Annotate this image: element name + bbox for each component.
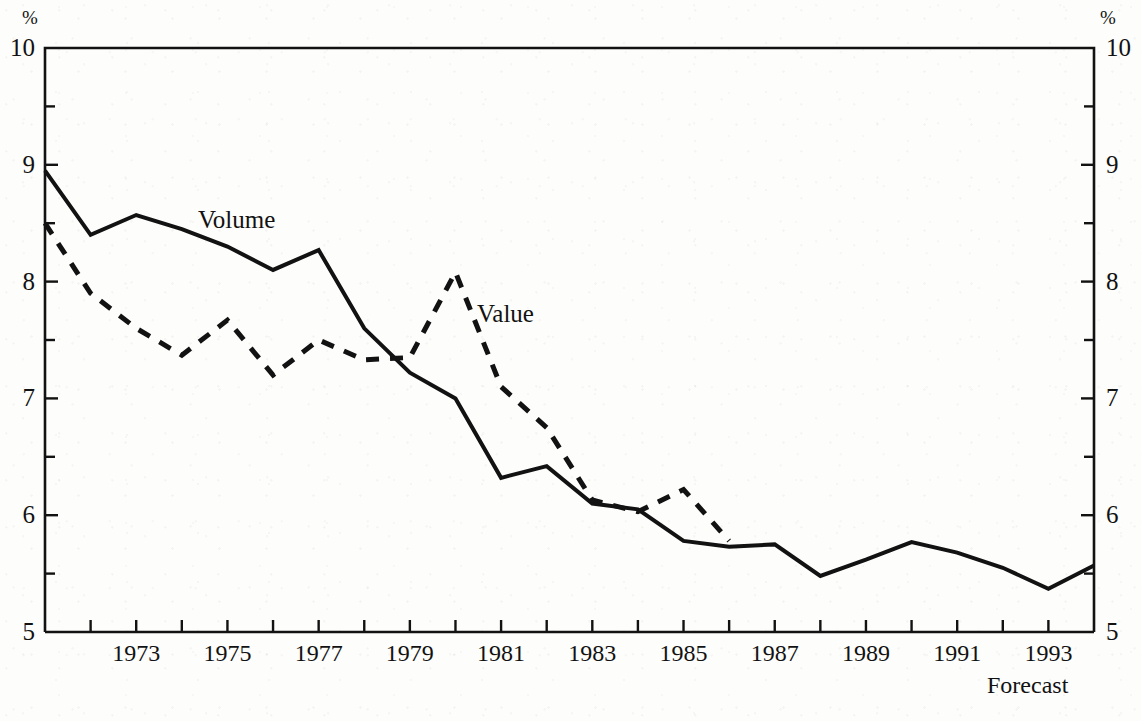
series-line-value: [45, 223, 729, 541]
left-axis-unit-label: %: [22, 8, 38, 27]
x-tick-label-1981: 1981: [477, 641, 525, 665]
x-tick-label-1975: 1975: [203, 641, 251, 665]
y-tick-label-right-7: 7: [1106, 385, 1119, 410]
y-tick-label-left-10: 10: [10, 35, 35, 60]
series-label-volume: Volume: [198, 207, 275, 232]
right-axis-unit-label: %: [1100, 8, 1116, 27]
x-tick-label-1973: 1973: [112, 641, 160, 665]
y-tick-label-right-5: 5: [1106, 619, 1119, 644]
y-tick-label-right-8: 8: [1106, 269, 1119, 294]
forecast-label: Forecast: [987, 673, 1068, 697]
y-tick-label-left-7: 7: [23, 385, 36, 410]
x-tick-label-1985: 1985: [660, 641, 708, 665]
y-tick-label-right-10: 10: [1106, 35, 1131, 60]
y-tick-label-left-5: 5: [23, 619, 36, 644]
series-line-volume: [45, 171, 1094, 589]
x-tick-label-1983: 1983: [568, 641, 616, 665]
y-tick-label-left-8: 8: [23, 269, 36, 294]
series-label-value: Value: [477, 301, 534, 326]
y-tick-label-right-6: 6: [1106, 502, 1119, 527]
chart-page: % % Volume Value Forecast 10109988776655…: [0, 0, 1141, 721]
y-tick-label-right-9: 9: [1106, 152, 1119, 177]
x-tick-label-1979: 1979: [386, 641, 434, 665]
y-tick-label-left-9: 9: [23, 152, 36, 177]
x-tick-label-1991: 1991: [933, 641, 981, 665]
x-tick-label-1989: 1989: [842, 641, 890, 665]
y-tick-label-left-6: 6: [23, 502, 36, 527]
line-chart-canvas: [0, 0, 1141, 721]
x-tick-label-1987: 1987: [751, 641, 799, 665]
x-tick-label-1977: 1977: [295, 641, 343, 665]
x-tick-label-1993: 1993: [1024, 641, 1072, 665]
